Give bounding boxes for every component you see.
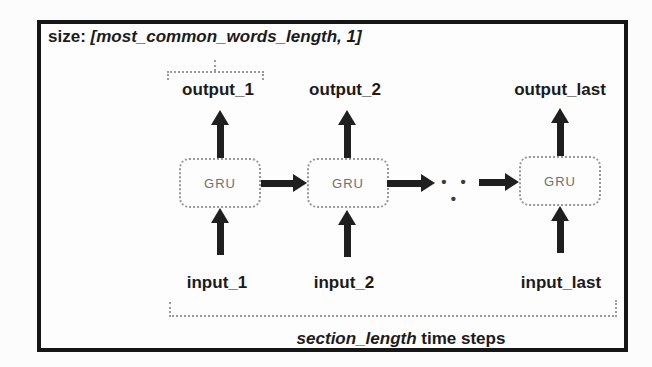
- arrow-shaft: [387, 180, 421, 187]
- gru-cell-2: GRU: [307, 158, 389, 208]
- arrowhead: [338, 110, 356, 125]
- output-arrow-last-icon: [551, 108, 569, 156]
- gru-cell-last: GRU: [519, 156, 601, 206]
- recurrent-arrow-1-icon: [261, 174, 307, 192]
- input-arrow-last-icon: [551, 206, 569, 253]
- output-arrow-2-icon: [338, 110, 356, 158]
- arrow-shaft: [557, 123, 564, 156]
- arrowhead: [551, 206, 569, 221]
- arrow-shaft: [344, 225, 351, 257]
- input-arrow-1-icon: [211, 208, 229, 255]
- size-bracket-stem: [214, 60, 216, 71]
- gru-cell-2-label: GRU: [332, 176, 364, 191]
- timesteps-bracket-line: [169, 315, 617, 317]
- output-label-2: output_2: [265, 80, 425, 100]
- timesteps-caption-rest: time steps: [417, 329, 506, 348]
- size-label-value: [most_common_words_length, 1]: [91, 27, 362, 46]
- arrow-shaft: [217, 223, 224, 255]
- size-label-prefix: size:: [48, 27, 91, 46]
- arrowhead: [293, 174, 307, 192]
- arrow-shaft: [344, 125, 351, 158]
- arrowhead: [211, 110, 229, 125]
- ellipsis-dots: • • •: [433, 173, 479, 207]
- diagram-canvas: size: [most_common_words_length, 1] outp…: [0, 0, 652, 367]
- recurrent-arrow-2-icon: [387, 174, 435, 192]
- size-label: size: [most_common_words_length, 1]: [48, 27, 362, 47]
- input-label-2: input_2: [264, 273, 424, 293]
- size-bracket-line: [167, 71, 264, 73]
- timesteps-caption: section_length time steps: [201, 329, 601, 349]
- arrow-shaft: [557, 221, 564, 253]
- size-bracket-left-tick: [167, 71, 169, 80]
- input-arrow-2-icon: [338, 210, 356, 257]
- arrowhead: [505, 173, 519, 191]
- timesteps-bracket-right-tick: [615, 300, 617, 317]
- arrow-shaft: [261, 180, 293, 187]
- recurrent-arrow-3-icon: [479, 173, 519, 191]
- timesteps-caption-variable: section_length: [297, 329, 417, 348]
- gru-cell-1: GRU: [179, 158, 261, 208]
- arrowhead: [211, 208, 229, 223]
- arrow-shaft: [217, 125, 224, 158]
- gru-cell-last-label: GRU: [544, 174, 576, 189]
- arrowhead: [551, 108, 569, 123]
- output-arrow-1-icon: [211, 110, 229, 158]
- output-label-last: output_last: [480, 80, 640, 100]
- arrow-shaft: [479, 179, 505, 186]
- input-label-last: input_last: [481, 273, 641, 293]
- gru-cell-1-label: GRU: [204, 176, 236, 191]
- diagram-frame: size: [most_common_words_length, 1] outp…: [37, 20, 628, 352]
- size-bracket-right-tick: [262, 71, 264, 80]
- arrowhead: [338, 210, 356, 225]
